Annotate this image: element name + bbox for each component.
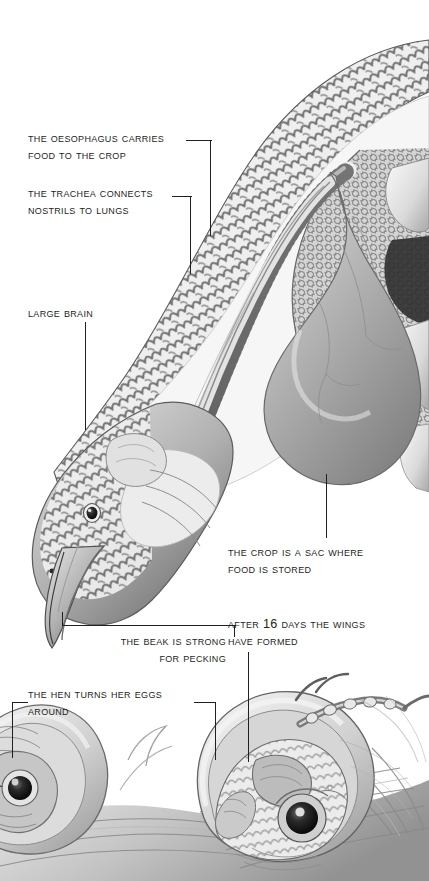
callout-crop-line2: food is stored — [228, 561, 363, 578]
leader-trachea-horizontal — [172, 196, 192, 197]
callout-hen-turns-eggs-line2: around — [28, 703, 162, 720]
callout-oesophagus-line2: food to the crop — [28, 147, 164, 164]
leader-trachea-vertical — [190, 196, 191, 274]
leader-beak-vertical-left — [62, 612, 63, 626]
leader-beak-horizontal — [62, 625, 236, 626]
callout-wings-line1: After 16 days the wings — [228, 616, 365, 633]
leader-hen-bracket-left-horizontal — [12, 702, 28, 703]
leader-oesophagus-vertical — [210, 140, 211, 236]
leader-oesophagus-horizontal — [186, 140, 212, 141]
callout-oesophagus-label: The oesophagus carries food to the crop — [28, 130, 164, 163]
callout-crop-line1: The crop is a sac where — [228, 544, 363, 561]
callout-hen-turns-eggs-line1: The hen turns her eggs — [28, 686, 162, 703]
callout-beak-line2: for pecking — [0, 650, 226, 667]
callout-trachea-line1: The trachea connects — [28, 185, 153, 202]
leader-hen-bracket-left-vertical — [12, 702, 13, 758]
leader-crop-vertical — [326, 474, 327, 538]
leader-brain-vertical — [85, 322, 86, 430]
callout-wings-label: After 16 days the wings have formed — [228, 616, 365, 649]
callout-beak-label: The beak is strong for pecking — [0, 633, 240, 666]
callout-brain-label: Large brain — [28, 305, 93, 322]
callout-brain-line1: Large brain — [28, 305, 93, 322]
callout-crop-label: The crop is a sac where food is stored — [228, 544, 363, 577]
callout-beak-line1: The beak is strong — [0, 633, 226, 650]
leader-wings-vertical — [248, 652, 249, 762]
callout-trachea-label: The trachea connects nostrils to lungs — [28, 185, 153, 218]
callout-wings-line2: have formed — [228, 633, 365, 650]
callout-hen-turns-eggs-label: The hen turns her eggs around — [28, 686, 162, 719]
leader-hen-bracket-right-vertical — [215, 702, 216, 760]
leader-hen-bracket-right-horizontal — [194, 702, 216, 703]
illustration-page: The oesophagus carries food to the crop … — [0, 0, 429, 881]
callout-oesophagus-line1: The oesophagus carries — [28, 130, 164, 147]
callout-trachea-line2: nostrils to lungs — [28, 202, 153, 219]
